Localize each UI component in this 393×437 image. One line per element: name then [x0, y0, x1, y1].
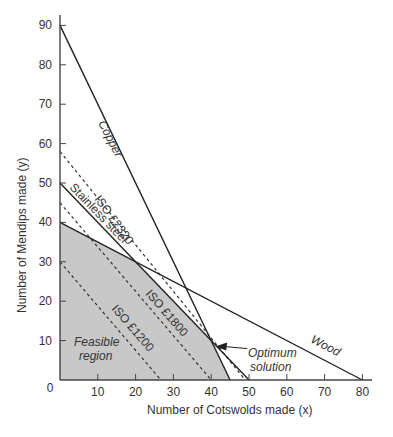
x-tick-label: 50	[242, 385, 256, 399]
y-axis-title: Number of Mendips made (y)	[15, 158, 29, 313]
y-tick-label: 20	[39, 294, 53, 308]
linear-programming-chart: 01020304050607080102030405060708090 Copp…	[0, 0, 393, 437]
y-tick-label: 90	[39, 18, 53, 32]
x-tick-label: 60	[280, 385, 294, 399]
y-tick-label: 30	[39, 255, 53, 269]
x-tick-label: 0	[47, 381, 54, 395]
x-tick-label: 40	[205, 385, 219, 399]
y-tick-label: 40	[39, 215, 53, 229]
optimum-arrow-shaft	[225, 347, 247, 349]
x-tick-label: 30	[167, 385, 181, 399]
y-tick-label: 60	[39, 137, 53, 151]
y-tick-label: 70	[39, 97, 53, 111]
x-tick-label: 20	[129, 385, 143, 399]
y-tick-label: 80	[39, 58, 53, 72]
optimum-arrow-head	[215, 343, 227, 351]
y-tick-label: 50	[39, 176, 53, 190]
label-optimum: Optimum	[248, 346, 297, 360]
x-tick-label: 70	[318, 385, 332, 399]
y-tick-label: 10	[39, 334, 53, 348]
label-solution: solution	[250, 360, 292, 374]
x-tick-label: 10	[91, 385, 105, 399]
label-copper: Copper	[95, 118, 126, 160]
x-axis-title: Number of Cotswolds made (x)	[147, 403, 312, 417]
label-region: region	[79, 349, 113, 363]
x-tick-label: 80	[356, 385, 370, 399]
label-feasible: Feasible	[74, 335, 120, 349]
